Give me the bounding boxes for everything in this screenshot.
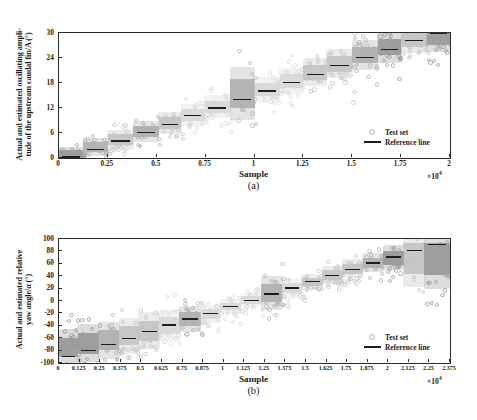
y-tick-label: 12 bbox=[30, 103, 54, 112]
scatter-point bbox=[378, 264, 382, 268]
scatter-point bbox=[210, 115, 214, 119]
scatter-point bbox=[67, 319, 71, 323]
reference-line-segment bbox=[182, 318, 197, 319]
scatter-point bbox=[235, 315, 239, 319]
reference-line-segment bbox=[101, 344, 116, 345]
y-tick-label: 100 bbox=[30, 234, 54, 243]
scatter-point bbox=[326, 260, 330, 264]
scatter-point bbox=[301, 86, 305, 90]
scatter-point bbox=[124, 129, 128, 133]
scatter-point bbox=[225, 312, 229, 316]
scatter-point bbox=[171, 115, 175, 119]
reference-line-segment bbox=[285, 287, 299, 288]
scatter-point bbox=[195, 126, 199, 130]
scatter-point bbox=[379, 51, 383, 55]
y-tick-mark bbox=[58, 350, 62, 351]
reference-line-segment bbox=[381, 49, 398, 50]
x-tick-label: 1.25 bbox=[284, 160, 320, 168]
y-tick-label: 20 bbox=[30, 283, 54, 292]
y-tick-label: 30 bbox=[30, 28, 54, 37]
panel-a: Actual and estimated oscillating ampli- … bbox=[0, 0, 477, 210]
scatter-point bbox=[421, 290, 425, 294]
scatter-point bbox=[236, 118, 240, 122]
scatter-point bbox=[71, 345, 75, 349]
scatter-point bbox=[263, 95, 267, 99]
scatter-point bbox=[380, 272, 384, 276]
y-tick-mark bbox=[58, 325, 62, 326]
scatter-point bbox=[407, 252, 411, 256]
scatter-point bbox=[415, 238, 419, 241]
x-tick-label: 1.5 bbox=[333, 160, 369, 168]
scatter-point bbox=[227, 122, 231, 126]
y-tick-mark bbox=[58, 275, 62, 276]
scatter-point bbox=[378, 34, 382, 38]
y-tick-mark bbox=[58, 337, 62, 338]
reference-line-segment bbox=[81, 350, 96, 351]
scatter-point bbox=[312, 285, 316, 289]
scatter-point bbox=[164, 114, 168, 118]
x-tick-label: 1 bbox=[236, 160, 272, 168]
scatter-point bbox=[85, 137, 89, 141]
scatter-point bbox=[435, 303, 439, 307]
scatter-point bbox=[364, 38, 368, 42]
scatter-point bbox=[270, 94, 274, 98]
x-tick-mark bbox=[346, 359, 347, 363]
scatter-point bbox=[312, 87, 316, 91]
scatter-point bbox=[240, 107, 244, 111]
panel-b: Actual and estimated relative yaw angle/… bbox=[0, 205, 477, 420]
scatter-point bbox=[63, 329, 67, 333]
scatter-point bbox=[354, 254, 358, 258]
reference-line-segment bbox=[258, 90, 276, 91]
scatter-point bbox=[193, 103, 197, 107]
x-tick-mark bbox=[58, 154, 59, 158]
scatter-point bbox=[440, 293, 444, 297]
scatter-point bbox=[329, 68, 333, 72]
y-tick-label: 40 bbox=[30, 271, 54, 280]
y-tick-mark bbox=[58, 82, 62, 83]
reference-line-segment bbox=[184, 115, 201, 116]
scatter-point bbox=[274, 280, 278, 284]
x-tick-mark bbox=[408, 359, 409, 363]
x-tick-label: 1.75 bbox=[382, 160, 418, 168]
scatter-point bbox=[375, 82, 379, 86]
x-tick-mark bbox=[182, 359, 183, 363]
x-tick-label: 2.375 bbox=[431, 365, 467, 371]
reference-line-segment bbox=[305, 281, 320, 282]
scatter-point bbox=[180, 326, 184, 330]
scatter-point bbox=[408, 48, 412, 52]
x-tick-label: 0.75 bbox=[187, 160, 223, 168]
scatter-point bbox=[352, 32, 356, 36]
scatter-point bbox=[105, 348, 109, 352]
x-tick-mark bbox=[205, 154, 206, 158]
scatter-point bbox=[169, 341, 173, 345]
scatter-point bbox=[352, 90, 356, 94]
scatter-point bbox=[435, 268, 439, 272]
scatter-point bbox=[373, 267, 377, 271]
legend-item: Test set bbox=[361, 127, 430, 137]
scatter-point bbox=[166, 310, 170, 314]
scatter-point bbox=[177, 341, 181, 345]
y-tick-label: -80 bbox=[30, 345, 54, 354]
scatter-point bbox=[67, 350, 71, 354]
scatter-point bbox=[245, 90, 249, 94]
scatter-point bbox=[70, 147, 74, 151]
scatter-point bbox=[368, 276, 372, 280]
scatter-point bbox=[114, 142, 118, 146]
scatter-point bbox=[446, 272, 450, 276]
scatter-point bbox=[290, 54, 294, 58]
scatter-point bbox=[339, 71, 343, 75]
y-tick-label: -20 bbox=[30, 308, 54, 317]
scatter-point bbox=[439, 270, 443, 274]
scatter-point bbox=[383, 32, 387, 36]
scatter-point bbox=[186, 311, 190, 315]
y-tick-mark bbox=[58, 238, 62, 239]
scatter-point bbox=[280, 262, 284, 266]
legend-b: Test setReference line bbox=[361, 332, 430, 352]
scatter-point bbox=[79, 337, 83, 341]
reference-line-segment bbox=[366, 262, 381, 263]
x-tick-mark bbox=[254, 154, 255, 158]
x-tick-mark bbox=[79, 359, 80, 363]
scatter-point bbox=[275, 299, 279, 303]
scatter-point bbox=[122, 152, 126, 156]
scatter-point bbox=[292, 63, 296, 67]
